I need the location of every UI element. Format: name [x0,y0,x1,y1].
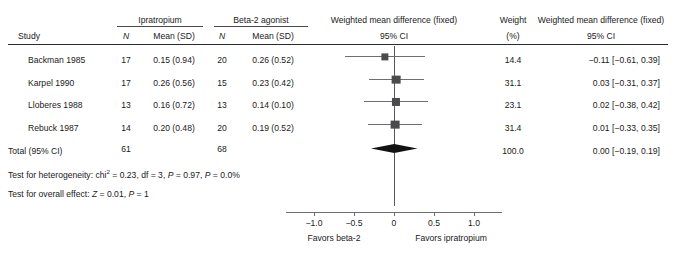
total-effect: 0.00 [−0.19, 0.19] [593,147,660,156]
pooled-effect-diamond [370,143,418,154]
cell-n2: 20 [217,56,227,65]
x-axis [286,212,502,213]
header-weight-line2: (%) [506,32,519,41]
header-wmd-plot-line1: Weighted mean difference (fixed) [331,16,457,25]
cell-weight: 31.4 [505,124,522,133]
header-wmd-text-line1: Weighted mean difference (fixed) [538,16,664,25]
table-row: Rebuck 1987 [28,124,79,133]
cell-n2: 13 [217,101,227,110]
cell-n2: 20 [217,124,227,133]
header-weight-line1: Weight [500,16,527,25]
cell-effect: 0.03 [−0.31, 0.37] [593,79,660,88]
header-study: Study [18,32,40,41]
cell-effect: −0.11 [−0.61, 0.39] [588,56,660,65]
axis-tick-label: 0 [392,219,397,228]
header-rule-ipratropium [117,26,203,27]
cell-n1: 17 [121,79,131,88]
forest-plot-area [286,44,502,208]
total-weight: 100.0 [502,147,524,156]
cell-effect: 0.02 [−0.38, 0.42] [593,101,660,110]
header-n-left: N [123,32,129,41]
axis-tick [354,212,355,216]
cell-mean1: 0.26 (0.56) [153,79,195,88]
overall-effect-test: Test for overall effect: Z = 0.01, P = 1 [8,190,149,199]
header-rule-beta2 [214,26,308,27]
het-prefix: Test for heterogeneity: chi [8,170,106,180]
overall-z-value: = 0.01, [97,189,128,199]
header-group-ipratropium: Ipratropium [138,16,181,25]
axis-tick [314,212,315,216]
forest-plot-figure: Ipratropium Beta-2 agonist Weighted mean… [0,0,676,255]
cell-n2: 15 [217,79,227,88]
cell-weight: 14.4 [505,56,522,65]
cell-mean1: 0.16 (0.72) [153,101,195,110]
cell-weight: 31.1 [505,79,522,88]
effect-size-marker [392,75,401,84]
favors-left-label: Favors beta-2 [307,234,360,243]
total-row-label: Total (95% CI) [8,147,62,156]
cell-mean1: 0.20 (0.48) [153,124,195,133]
effect-size-marker [382,53,389,60]
cell-weight: 23.1 [505,101,522,110]
cell-mean1: 0.15 (0.94) [153,56,195,65]
axis-tick [474,212,475,216]
effect-size-marker [390,120,399,129]
cell-n1: 14 [121,124,131,133]
total-n2: 68 [217,145,227,154]
header-wmd-plot-line2: 95% CI [380,32,408,41]
axis-tick-label: 1.0 [468,219,480,228]
header-wmd-text-line2: 95% CI [587,32,615,41]
table-row: Lloberes 1988 [28,101,82,110]
het-rest-a: = 0.23, df = 3, [110,170,168,180]
header-mean-left: Mean (SD) [153,32,195,41]
header-group-beta2: Beta-2 agonist [233,16,288,25]
table-row: Karpel 1990 [28,79,74,88]
axis-tick-label: −1.0 [306,219,323,228]
effect-size-marker [392,97,400,105]
axis-tick-label: 0.5 [428,219,440,228]
header-mean-right: Mean (SD) [252,32,294,41]
axis-tick [434,212,435,216]
cell-n1: 17 [121,56,131,65]
overall-prefix: Test for overall effect: [8,189,92,199]
heterogeneity-test: Test for heterogeneity: chi2 = 0.23, df … [8,169,240,179]
cell-n1: 13 [121,101,131,110]
het-p1-value: = 0.97, [173,170,204,180]
overall-p-value: = 1 [134,189,149,199]
table-row: Backman 1985 [28,56,85,65]
total-n1: 61 [121,145,131,154]
header-n-right: N [219,32,225,41]
axis-tick-label: −0.5 [346,219,363,228]
favors-right-label: Favors ipratropium [415,234,487,243]
cell-effect: 0.01 [−0.33, 0.35] [593,124,660,133]
axis-tick [394,212,395,216]
het-p2-value: = 0.0% [210,170,239,180]
